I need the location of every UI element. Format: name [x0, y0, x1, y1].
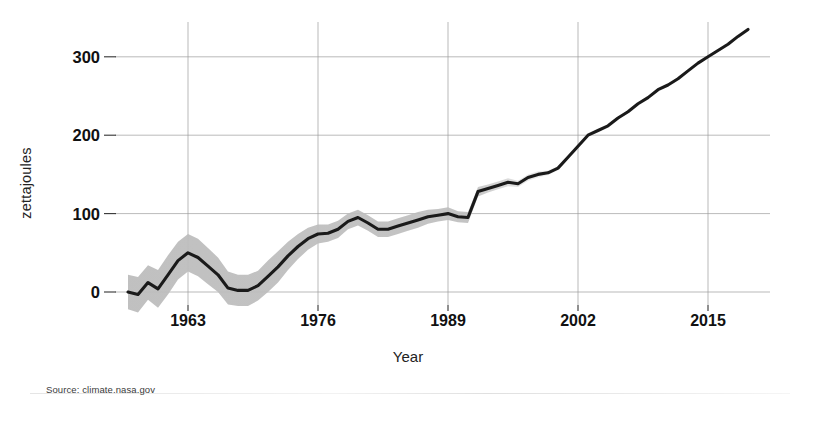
chart-container: 0100200300 19631976198920022015 zettajou… — [0, 0, 816, 426]
x-axis-tick-label: 2015 — [690, 312, 726, 330]
y-axis-title: zettajoules — [18, 113, 34, 253]
x-axis-tick-label: 1963 — [170, 312, 206, 330]
y-axis-tick-label: 200 — [54, 126, 100, 145]
y-axis-tick-label: 0 — [54, 283, 100, 302]
x-axis-tick-label: 1989 — [430, 312, 466, 330]
x-axis-tick-label: 1976 — [300, 312, 336, 330]
y-axis-tick-labels: 0100200300 — [54, 0, 100, 426]
data-line-ocean-heat — [128, 29, 748, 294]
x-axis-tick-label: 2002 — [560, 312, 596, 330]
uncertainty-band — [128, 28, 748, 313]
x-axis-title: Year — [393, 348, 423, 365]
y-axis-tick-label: 300 — [54, 47, 100, 66]
y-axis-tick-label: 100 — [54, 204, 100, 223]
source-note: Source: climate.nasa.gov — [46, 384, 155, 395]
